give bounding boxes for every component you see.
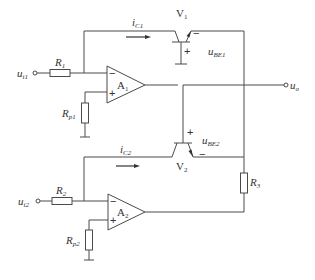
resistor-rp1 — [82, 103, 89, 123]
label-ic2: iC2 — [120, 143, 132, 157]
resistor-rp2 — [86, 230, 93, 250]
label-r2: R2 — [55, 184, 67, 198]
label-rp2: Rp2 — [65, 234, 80, 248]
a1-plus-sign: + — [109, 87, 115, 99]
a2-plus-sign: + — [110, 214, 116, 226]
label-r3: R3 — [249, 176, 261, 190]
label-v2: V2 — [176, 160, 188, 174]
ube2-minus-sign: − — [199, 148, 205, 160]
input-terminal-ui1 — [33, 71, 37, 75]
a1-minus-sign: − — [109, 67, 115, 79]
ube1-minus-sign: − — [193, 27, 199, 39]
ube1-plus-sign: + — [184, 45, 190, 57]
a2-minus-sign: − — [110, 195, 116, 207]
label-uo: uo — [290, 79, 300, 93]
label-ic1: iC1 — [132, 16, 143, 30]
label-r1: R1 — [54, 56, 65, 70]
input-terminal-ui2 — [36, 199, 40, 203]
circuit-diagram: ui1 R1 Rp1 A1 − + iC1 V1 − + uBE1 uo + u… — [0, 0, 315, 280]
label-v1: V1 — [176, 7, 188, 21]
label-ube1: uBE1 — [208, 45, 226, 59]
resistor-r1 — [50, 70, 70, 77]
label-ube2: uBE2 — [202, 134, 220, 148]
label-ui1: ui1 — [17, 67, 28, 81]
label-rp1: Rp1 — [61, 107, 76, 121]
transistor-v2 — [172, 143, 193, 157]
label-ui2: ui2 — [18, 195, 29, 209]
ube2-plus-sign: + — [187, 126, 193, 138]
resistor-r2 — [52, 198, 72, 205]
arrow-right-icon — [116, 164, 140, 168]
arrow-right-icon — [126, 35, 151, 39]
output-terminal-uo — [284, 83, 288, 87]
resistor-r3 — [241, 173, 248, 193]
